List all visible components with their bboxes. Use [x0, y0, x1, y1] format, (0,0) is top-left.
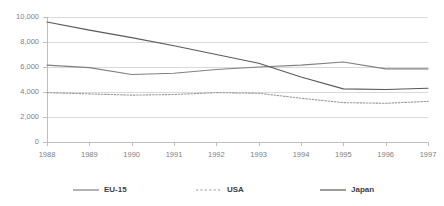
x-axis-label: 1995	[335, 150, 352, 159]
x-axis-label: 1992	[208, 150, 225, 159]
x-axis-label: 1994	[293, 150, 310, 159]
data-series-group	[47, 22, 428, 103]
x-axis-label: 1997	[420, 150, 437, 159]
x-axis-label: 1989	[81, 150, 98, 159]
line-chart: 10,0008,0006,0004,0002,0000 198819891990…	[0, 0, 444, 206]
series-line-japan	[47, 22, 428, 90]
y-axis-label: 10,000	[16, 12, 39, 21]
x-axis-label: 1996	[377, 150, 394, 159]
y-axis-tick-labels: 10,0008,0006,0004,0002,0000	[16, 12, 39, 146]
y-axis-label: 8,000	[20, 37, 39, 46]
y-axis-label: 4,000	[20, 87, 39, 96]
axis-group	[43, 17, 429, 146]
x-axis-label: 1988	[39, 150, 56, 159]
y-axis-label: 2,000	[20, 112, 39, 121]
series-line-eu-15	[47, 62, 428, 75]
chart-legend: EU-15USAJapan	[73, 185, 374, 194]
legend-label-usa: USA	[227, 185, 244, 194]
x-axis-tick-labels: 1988198919901991199219931994199519961997	[39, 150, 437, 159]
legend-label-eu-15: EU-15	[104, 185, 127, 194]
x-axis-label: 1993	[250, 150, 267, 159]
x-axis-label: 1991	[166, 150, 183, 159]
x-axis-label: 1990	[123, 150, 140, 159]
y-axis-label: 0	[35, 137, 39, 146]
legend-label-japan: Japan	[351, 185, 374, 194]
chart-plot-area: 10,0008,0006,0004,0002,0000 198819891990…	[0, 0, 444, 206]
gridlines-group	[47, 18, 428, 143]
series-line-usa	[47, 93, 428, 104]
y-axis-label: 6,000	[20, 62, 39, 71]
